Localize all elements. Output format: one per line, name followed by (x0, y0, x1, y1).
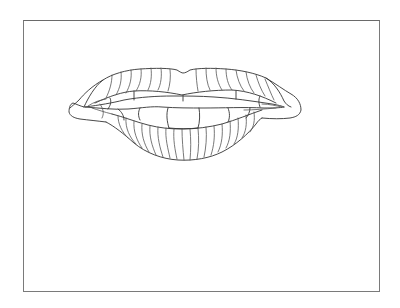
upper-lip-ridges (106, 68, 274, 100)
lower-lip-ridges (118, 112, 254, 160)
drawing-canvas (0, 0, 400, 308)
lower-lip-inner (112, 110, 262, 129)
teeth (88, 91, 282, 129)
lips-illustration (0, 0, 400, 308)
